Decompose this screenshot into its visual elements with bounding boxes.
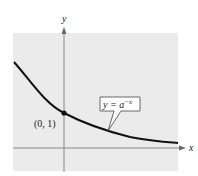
x-axis-label: x [188,142,194,153]
y-axis-label: y [61,13,67,24]
plot-panel [13,33,178,171]
exponential-graph: y x (0, 1) y = a−x [0,0,198,176]
y-axis-arrow-icon [62,27,67,34]
curve-label: y = a [102,99,124,110]
point-label: (0, 1) [34,118,56,130]
x-axis-arrow-icon [179,146,186,151]
point-0-1 [61,110,66,115]
curve-label-exponent: −x [124,98,133,106]
